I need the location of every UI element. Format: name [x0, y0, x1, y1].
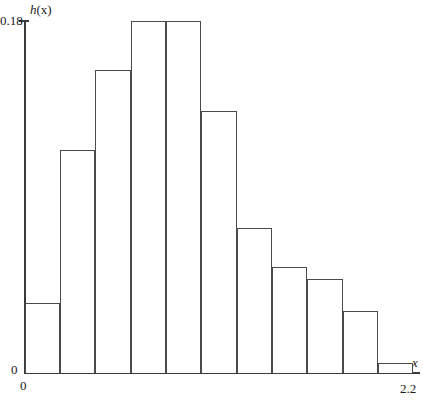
histogram-bar: [237, 228, 272, 373]
histogram-bar: [60, 150, 95, 373]
histogram-figure: h(x) 0.18 0 0 2.2 x: [0, 0, 423, 403]
histogram-bar: [307, 279, 342, 373]
histogram-bar: [343, 311, 378, 374]
histogram-bar: [166, 21, 201, 373]
histogram-bar: [272, 267, 307, 373]
histogram-bar: [25, 303, 60, 373]
plot-area: [0, 0, 423, 403]
histogram-bar: [201, 111, 236, 373]
histogram-bar: [131, 21, 166, 373]
histogram-bar: [95, 70, 130, 373]
histogram-bar: [378, 363, 413, 373]
